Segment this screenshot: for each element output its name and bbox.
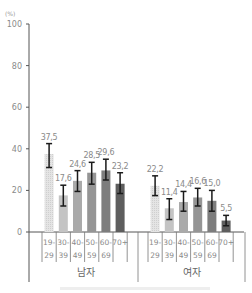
x-axis-categories: 19-2930-3940-4950-5960-6970+남자19-2930-39…	[42, 232, 245, 282]
category-label: 39	[165, 251, 175, 260]
category-label: 30-	[163, 238, 176, 247]
value-label: 24,6	[69, 160, 86, 169]
faint-caption	[60, 287, 210, 290]
category-label: 29	[150, 251, 160, 260]
category-label: 29	[44, 251, 54, 260]
y-tick-label: 80	[12, 62, 22, 71]
category-label: 69	[101, 251, 111, 260]
group-label: 여자	[183, 267, 201, 278]
category-label: 19-	[43, 238, 56, 247]
value-label: 17,6	[55, 174, 72, 183]
category-label: 60-	[100, 238, 113, 247]
y-unit-label: (%)	[5, 10, 15, 17]
bars: 37,517,624,628,529,623,222,211,414,416,6…	[41, 133, 232, 232]
value-label: 22,2	[147, 165, 164, 174]
y-tick-label: 100	[7, 20, 22, 29]
value-label: 5,5	[220, 204, 232, 213]
y-tick-label: 0	[17, 228, 22, 237]
value-label: 15,0	[204, 179, 221, 188]
category-label: 39	[59, 251, 69, 260]
value-label: 23,2	[112, 162, 129, 171]
group-label: 남자	[77, 267, 95, 278]
bar-group-female: 22,211,414,416,615,05,5	[147, 165, 232, 232]
y-tick-label: 60	[12, 103, 22, 112]
y-tick-label: 20	[12, 186, 22, 195]
bar-chart: (%)020406080100 37,517,624,628,529,623,2…	[0, 0, 252, 293]
category-label: 40-	[177, 238, 190, 247]
category-label: 49	[179, 251, 189, 260]
category-label: 50-	[86, 238, 99, 247]
category-label: 59	[193, 251, 203, 260]
value-label: 29,6	[98, 148, 115, 157]
bar-group-male: 37,517,624,628,529,623,2	[41, 133, 129, 232]
category-label: 59	[87, 251, 97, 260]
value-label: 37,5	[41, 133, 58, 142]
category-label: 30-	[57, 238, 70, 247]
y-tick-label: 40	[12, 145, 22, 154]
category-label: 69	[207, 251, 217, 260]
category-label: 49	[73, 251, 83, 260]
category-label: 40-	[71, 238, 84, 247]
category-label: 50-	[192, 238, 205, 247]
category-label: 60-	[206, 238, 219, 247]
category-label: 70+	[112, 238, 128, 247]
category-label: 19-	[149, 238, 162, 247]
category-label: 70+	[218, 238, 234, 247]
